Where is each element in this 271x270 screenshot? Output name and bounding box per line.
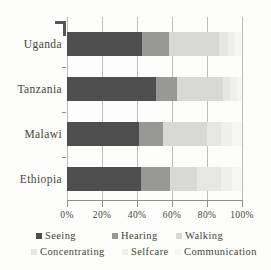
segment-uganda-communication bbox=[235, 32, 242, 56]
segment-uganda-concentrating bbox=[219, 32, 228, 56]
segment-tanzania-communication bbox=[237, 77, 242, 101]
segment-tanzania-hearing bbox=[156, 77, 177, 101]
legend-item-communication: Communication bbox=[175, 246, 257, 257]
segment-ethiopia-seeing bbox=[67, 167, 141, 191]
y-tick-mark bbox=[62, 67, 66, 68]
segment-uganda-selfcare bbox=[228, 32, 235, 56]
segment-malawi-concentrating bbox=[207, 122, 221, 146]
legend-label-seeing: Seeing bbox=[45, 230, 76, 241]
x-tick-mark bbox=[67, 200, 68, 207]
segment-ethiopia-selfcare bbox=[221, 167, 232, 191]
segment-tanzania-seeing bbox=[67, 77, 156, 101]
segment-uganda-hearing bbox=[142, 32, 168, 56]
x-tick-label: 40% bbox=[128, 210, 146, 220]
x-tick-label: 60% bbox=[163, 210, 181, 220]
segment-malawi-communication bbox=[232, 122, 243, 146]
x-axis-line bbox=[67, 200, 243, 201]
segment-malawi-seeing bbox=[67, 122, 139, 146]
segment-malawi-selfcare bbox=[221, 122, 232, 146]
legend-swatch-communication bbox=[175, 249, 181, 255]
legend-item-walking: Walking bbox=[176, 230, 223, 241]
legend-item-concentrating: Concentrating bbox=[31, 246, 105, 257]
x-tick-mark bbox=[207, 200, 208, 207]
y-tick-mark bbox=[62, 112, 66, 113]
stacked-bar-chart-figure: UgandaTanzaniaMalawiEthiopia 0%20%40%60%… bbox=[0, 0, 271, 270]
segment-ethiopia-walking bbox=[170, 167, 196, 191]
segment-uganda-walking bbox=[169, 32, 220, 56]
category-label-malawi: Malawi bbox=[0, 127, 62, 141]
segment-uganda-seeing bbox=[67, 32, 142, 56]
legend-label-selfcare: Selfcare bbox=[131, 246, 169, 257]
segment-malawi-hearing bbox=[139, 122, 164, 146]
bar-uganda bbox=[67, 32, 242, 56]
legend-label-communication: Communication bbox=[184, 246, 257, 257]
x-tick-mark bbox=[172, 200, 173, 207]
legend-swatch-selfcare bbox=[122, 249, 128, 255]
category-label-ethiopia: Ethiopia bbox=[0, 172, 62, 186]
segment-ethiopia-communication bbox=[232, 167, 243, 191]
legend-item-seeing: Seeing bbox=[36, 230, 76, 241]
legend-label-concentrating: Concentrating bbox=[40, 246, 105, 257]
x-tick-label: 0% bbox=[60, 210, 73, 220]
legend-swatch-concentrating bbox=[31, 249, 37, 255]
segment-ethiopia-hearing bbox=[141, 167, 171, 191]
bar-ethiopia bbox=[67, 167, 242, 191]
x-tick-mark bbox=[102, 200, 103, 207]
category-label-uganda: Uganda bbox=[0, 37, 62, 51]
legend-item-selfcare: Selfcare bbox=[122, 246, 169, 257]
category-label-tanzania: Tanzania bbox=[0, 82, 62, 96]
x-tick-label: 100% bbox=[230, 210, 253, 220]
bar-malawi bbox=[67, 122, 242, 146]
segment-tanzania-concentrating bbox=[223, 77, 230, 101]
y-tick-mark bbox=[62, 157, 66, 158]
x-tick-label: 80% bbox=[198, 210, 216, 220]
segment-tanzania-selfcare bbox=[230, 77, 237, 101]
segment-malawi-walking bbox=[163, 122, 207, 146]
bar-tanzania bbox=[67, 77, 242, 101]
legend-swatch-seeing bbox=[36, 233, 42, 239]
legend-label-hearing: Hearing bbox=[121, 230, 158, 241]
segment-ethiopia-concentrating bbox=[197, 167, 222, 191]
legend-swatch-hearing bbox=[112, 233, 118, 239]
legend-label-walking: Walking bbox=[185, 230, 223, 241]
x-tick-mark bbox=[137, 200, 138, 207]
legend-item-hearing: Hearing bbox=[112, 230, 158, 241]
plot-corner-artifact bbox=[55, 21, 66, 36]
segment-tanzania-walking bbox=[177, 77, 223, 101]
x-tick-mark bbox=[242, 200, 243, 207]
legend-swatch-walking bbox=[176, 233, 182, 239]
x-tick-label: 20% bbox=[93, 210, 111, 220]
gridline-100% bbox=[242, 17, 243, 200]
